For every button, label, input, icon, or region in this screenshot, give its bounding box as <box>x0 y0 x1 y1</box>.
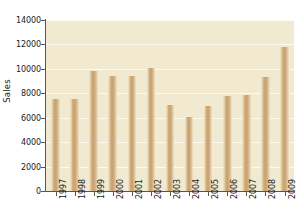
x-tick-label: 1997 <box>59 179 68 199</box>
y-tick-mark <box>41 20 45 21</box>
x-tick-mark <box>75 192 76 196</box>
x-tick-mark <box>285 192 286 196</box>
bar-chart: Sales 02000400060008000100001200014000 1… <box>0 0 304 222</box>
x-tick-mark <box>170 192 171 196</box>
x-tick-label: 1999 <box>97 179 106 199</box>
y-tick-mark <box>41 93 45 94</box>
x-tick-mark <box>56 192 57 196</box>
x-tick-mark <box>189 192 190 196</box>
x-tick-label: 2001 <box>135 179 144 199</box>
x-tick-label: 2006 <box>230 179 239 199</box>
x-tick-mark <box>151 192 152 196</box>
y-tick-mark <box>41 118 45 119</box>
x-tick-mark <box>265 192 266 196</box>
y-tick-mark <box>41 167 45 168</box>
y-tick-mark <box>41 69 45 70</box>
x-tick-mark <box>94 192 95 196</box>
x-tick-label: 2003 <box>173 179 182 199</box>
x-tick-mark <box>132 192 133 196</box>
x-tick-label: 2008 <box>268 179 277 199</box>
x-tick-label: 2007 <box>249 179 258 199</box>
y-tick-mark <box>41 142 45 143</box>
x-tick-mark <box>113 192 114 196</box>
x-tick-label: 1998 <box>78 179 87 199</box>
x-tick-label: 2000 <box>116 179 125 199</box>
x-tick-mark <box>246 192 247 196</box>
x-tick-mark <box>208 192 209 196</box>
x-tick-label: 2004 <box>192 179 201 199</box>
x-tick-label: 2002 <box>154 179 163 199</box>
y-tick-mark <box>41 44 45 45</box>
x-axis-tick-labels: 1997199819992000200120022003200420052006… <box>0 0 304 222</box>
x-tick-label: 2005 <box>211 179 220 199</box>
x-tick-mark <box>227 192 228 196</box>
y-tick-mark <box>41 191 45 192</box>
x-tick-label: 2009 <box>288 179 297 199</box>
